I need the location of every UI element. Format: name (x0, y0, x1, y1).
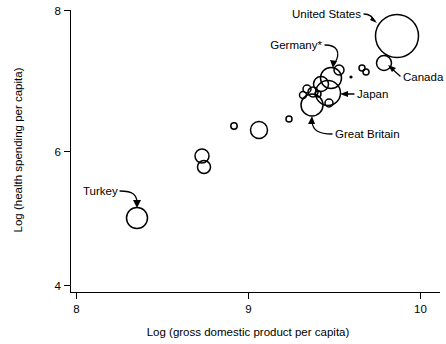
scatter-plot-figure: 8 6 4 8 9 10 Log (gross domestic product… (0, 0, 446, 344)
axis-x (71, 293, 441, 300)
arrow-head-great-britain (308, 116, 315, 124)
x-tick-label-10: 10 (414, 303, 427, 315)
bubble-unlabeled-13[interactable] (349, 75, 352, 78)
bubble-unlabeled-4[interactable] (251, 122, 268, 139)
axis-y (64, 10, 71, 293)
y-tick-label-8: 8 (55, 5, 61, 17)
y-tick-label-6: 6 (55, 146, 61, 158)
bubble-unlabeled-3[interactable] (231, 123, 237, 129)
y-axis-title: Log (health spending per capita) (12, 67, 24, 232)
label-great-britain: Great Britain (335, 128, 400, 140)
label-united-states: United States (292, 8, 361, 20)
bubble-turkey[interactable] (127, 208, 148, 229)
arrow-head-united-states (370, 17, 377, 23)
plot-canvas: 8 6 4 8 9 10 Log (gross domestic product… (0, 0, 446, 344)
label-japan: Japan (357, 88, 388, 100)
bubble-unlabeled-15[interactable] (363, 69, 369, 75)
bubble-canada[interactable] (377, 56, 392, 71)
x-tick-label-9: 9 (245, 303, 251, 315)
x-tick-label-8: 8 (73, 303, 79, 315)
arrow-head-turkey (133, 200, 141, 208)
bubble-united-states[interactable] (376, 15, 419, 58)
y-tick-label-4: 4 (55, 280, 62, 292)
annotation-leaders-group (120, 14, 400, 208)
bubble-unlabeled-5[interactable] (286, 116, 292, 122)
label-canada: Canada (403, 71, 444, 83)
label-turkey: Turkey (83, 185, 118, 197)
x-axis-title: Log (gross domestic product per capita) (147, 326, 350, 338)
leader-great-britain (312, 122, 332, 134)
label-germany: Germany* (270, 39, 322, 51)
bubble-unlabeled-11[interactable] (334, 65, 344, 75)
